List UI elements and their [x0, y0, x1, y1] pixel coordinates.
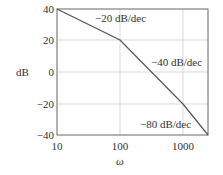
annotation-minus80: −80 dB/dec	[140, 119, 191, 130]
y-tick-minus40: −40	[28, 130, 54, 141]
y-tick-20: 20	[28, 35, 54, 46]
x-axis-label: ω	[116, 156, 124, 167]
annotation-minus20: −20 dB/dec	[95, 13, 146, 24]
y-tick-minus20: −20	[28, 99, 54, 110]
y-tick-0: 0	[28, 67, 54, 78]
grid	[57, 9, 208, 135]
x-tick-100: 100	[105, 141, 135, 152]
y-axis-label: dB	[16, 67, 29, 78]
y-tick-40: 40	[28, 4, 54, 15]
x-tick-1000: 1000	[168, 141, 198, 152]
x-tick-10: 10	[42, 141, 72, 152]
annotation-minus40: −40 dB/dec	[151, 57, 202, 68]
